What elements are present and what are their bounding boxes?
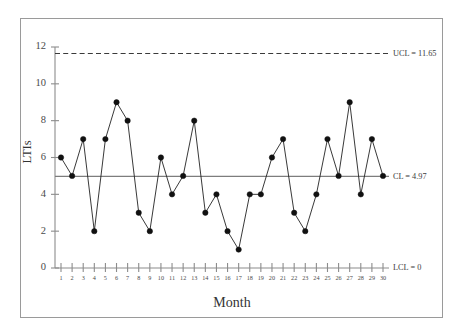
figure-frame: [20, 18, 443, 318]
